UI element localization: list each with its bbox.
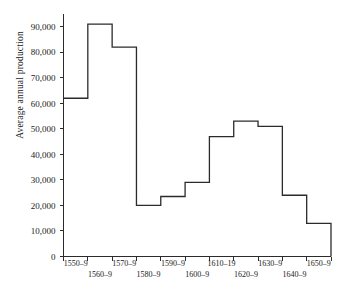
y-axis-tick-labels: 010,00020,00030,00040,00050,00060,00070,… [31, 22, 56, 262]
x-axis-tick-labels: 1550–91560–91570–91580–91590–91600–91610… [64, 259, 331, 279]
x-tick-label: 1570–9 [112, 259, 136, 268]
y-tick-label: 70,000 [31, 73, 56, 83]
x-tick-label: 1610–19 [208, 259, 236, 268]
x-axis-ticks [64, 257, 332, 261]
x-tick-label: 1630–9 [258, 259, 282, 268]
y-tick-label: 30,000 [31, 175, 56, 185]
y-axis-ticks [60, 27, 64, 257]
x-tick-label: 1580–9 [137, 270, 161, 279]
x-tick-label: 1600–9 [185, 270, 209, 279]
x-tick-label: 1620–9 [234, 270, 258, 279]
axis-lines [64, 14, 332, 257]
x-tick-label: 1550–9 [64, 259, 88, 268]
y-tick-label: 50,000 [31, 124, 56, 134]
y-tick-label: 20,000 [31, 201, 56, 211]
y-tick-label: 60,000 [31, 99, 56, 109]
y-tick-label: 0 [51, 252, 56, 262]
chart-container: Average annual production 010,00020,0003… [0, 0, 340, 284]
x-tick-label: 1590–9 [161, 259, 185, 268]
y-tick-label: 10,000 [31, 226, 56, 236]
x-tick-label: 1560–9 [88, 270, 112, 279]
x-tick-label: 1650–9 [307, 259, 331, 268]
y-tick-label: 40,000 [31, 150, 56, 160]
step-histogram-plot: 010,00020,00030,00040,00050,00060,00070,… [0, 0, 340, 284]
y-tick-label: 90,000 [31, 22, 56, 32]
y-tick-label: 80,000 [31, 47, 56, 57]
data-step-line [64, 24, 332, 256]
x-tick-label: 1640–9 [283, 270, 307, 279]
